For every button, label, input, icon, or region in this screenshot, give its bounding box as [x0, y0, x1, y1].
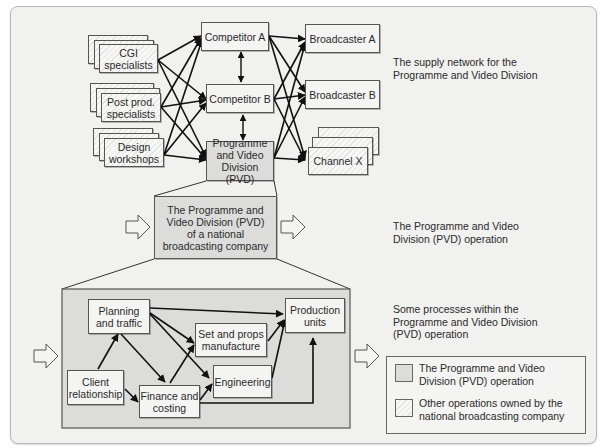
- supplier-design-workshops[interactable]: Design workshops: [104, 138, 164, 167]
- process-finance-costing[interactable]: Finance and costing: [139, 385, 200, 418]
- broadcaster-a-label: Broadcaster A: [310, 33, 376, 45]
- process-production-units[interactable]: Production units: [285, 298, 345, 333]
- legend-label-other: Other operations owned by the national b…: [419, 397, 579, 422]
- supplier-cgi-specialists[interactable]: CGI specialists: [99, 44, 158, 73]
- supplier-arrows: [158, 36, 206, 160]
- process-client-relationship[interactable]: Client relationship: [67, 370, 124, 405]
- client-label: Client relationship: [68, 376, 123, 400]
- supplier-post-prod-specialists[interactable]: Post prod. specialists: [101, 93, 161, 122]
- legend-item-pvd: The Programme and Video Division (PVD) o…: [395, 362, 569, 387]
- planning-label: Planning and traffic: [89, 305, 149, 329]
- engineering-label: Engineering: [214, 376, 270, 388]
- channel-x-label: Channel X: [313, 155, 362, 167]
- supplier-cgi-label: CGI specialists: [100, 47, 157, 71]
- competitor-a[interactable]: Competitor A: [201, 22, 269, 51]
- legend-swatch-hatched: [395, 399, 413, 417]
- legend-item-other: Other operations owned by the national b…: [395, 397, 579, 422]
- pvd-node-label: Programme and Video Division (PVD): [207, 137, 273, 185]
- competitor-b[interactable]: Competitor B: [206, 84, 274, 113]
- competitor-a-label: Competitor A: [205, 31, 266, 43]
- broadcaster-b[interactable]: Broadcaster B: [305, 80, 380, 109]
- channel-x[interactable]: Channel X: [308, 147, 368, 175]
- legend-label-pvd: The Programme and Video Division (PVD) o…: [419, 362, 569, 387]
- pvd-operation-label: The Programme and Video Division (PVD) o…: [161, 204, 270, 252]
- pvd-operation-box[interactable]: The Programme and Video Division (PVD) o…: [154, 196, 277, 259]
- supplier-design-label: Design workshops: [105, 141, 163, 165]
- legend: The Programme and Video Division (PVD) o…: [386, 356, 586, 434]
- legend-swatch-grey: [395, 364, 413, 382]
- set-props-label: Set and props manufacture: [196, 328, 266, 352]
- process-engineering[interactable]: Engineering: [213, 365, 272, 398]
- competitor-b-label: Competitor B: [209, 93, 270, 105]
- pvd-node[interactable]: Programme and Video Division (PVD): [206, 141, 274, 181]
- supplier-post-label: Post prod. specialists: [102, 96, 160, 120]
- label-operation: The Programme and Video Division (PVD) o…: [393, 220, 543, 245]
- process-planning-traffic[interactable]: Planning and traffic: [88, 299, 150, 334]
- label-supply-network: The supply network for the Programme and…: [393, 56, 543, 81]
- broadcaster-a[interactable]: Broadcaster A: [305, 24, 380, 53]
- label-processes: Some processes within the Programme and …: [393, 303, 543, 341]
- finance-label: Finance and costing: [140, 390, 199, 414]
- production-label: Production units: [286, 304, 344, 328]
- customer-arrows: [269, 36, 305, 160]
- process-set-props[interactable]: Set and props manufacture: [195, 323, 267, 357]
- broadcaster-b-label: Broadcaster B: [309, 89, 376, 101]
